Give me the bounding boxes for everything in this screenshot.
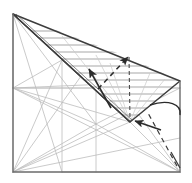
origami-diagram-root: [0, 0, 192, 183]
origami-figure: [0, 0, 192, 183]
